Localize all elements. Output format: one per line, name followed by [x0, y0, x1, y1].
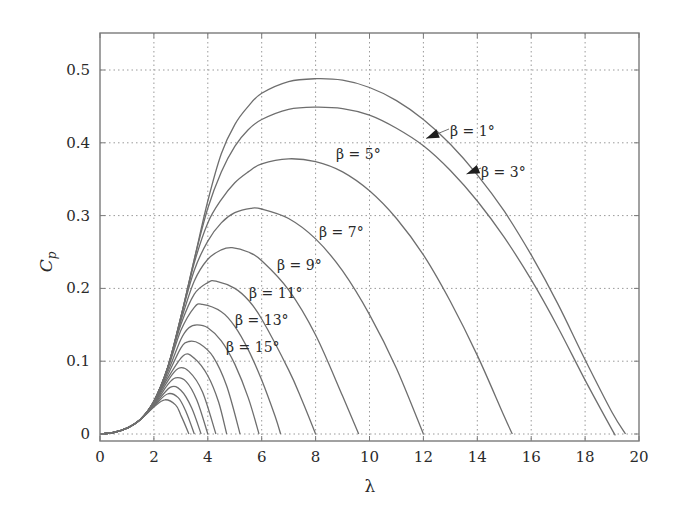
annotation-beta-9: β = 9°	[277, 257, 322, 273]
x-tick-label: 4	[203, 448, 213, 466]
annotations: β = 1°β = 3°β = 5°β = 7°β = 9°β = 11°β =…	[226, 123, 526, 355]
y-tick-label: 0.1	[66, 352, 90, 370]
x-tick-label: 14	[468, 448, 487, 466]
x-tick-label: 18	[576, 448, 595, 466]
annotation-beta-5: β = 5°	[336, 146, 381, 162]
y-axis-label: Cp	[36, 251, 59, 272]
annotation-beta-3: β = 3°	[481, 164, 526, 180]
x-tick-label: 8	[311, 448, 321, 466]
y-axis-label-main: Cp	[36, 251, 59, 272]
y-axis-ticks: 00.10.20.30.40.5	[66, 61, 639, 443]
x-tick-label: 12	[414, 448, 433, 466]
annotation-beta-11: β = 11°	[249, 285, 303, 301]
annotation-arrowhead-beta-1	[426, 129, 440, 138]
x-tick-label: 6	[257, 448, 267, 466]
curve-beta-29	[100, 400, 189, 434]
annotation-beta-7: β = 7°	[319, 224, 364, 240]
y-tick-label: 0.4	[66, 134, 90, 152]
grid-lines	[100, 33, 639, 441]
x-tick-label: 2	[149, 448, 159, 466]
y-axis-label-sub: p	[45, 251, 59, 259]
y-tick-label: 0.2	[66, 279, 90, 297]
annotation-beta-15: β = 15°	[226, 339, 280, 355]
x-axis-label: λ	[365, 476, 376, 496]
curve-beta-1	[100, 79, 626, 434]
curve-layer	[100, 79, 626, 435]
annotation-arrowhead-beta-3	[467, 165, 481, 174]
annotation-beta-1: β = 1°	[450, 123, 495, 139]
x-axis-ticks: 02468101214161820	[95, 33, 648, 466]
x-tick-label: 0	[95, 448, 105, 466]
annotation-beta-13: β = 13°	[235, 312, 289, 328]
x-tick-label: 10	[360, 448, 379, 466]
cp-lambda-chart: 02468101214161820 00.10.20.30.40.5 β = 1…	[0, 0, 682, 521]
y-tick-label: 0.5	[66, 61, 90, 79]
y-tick-label: 0.3	[66, 207, 90, 225]
y-tick-label: 0	[80, 425, 90, 443]
x-tick-label: 16	[522, 448, 541, 466]
x-tick-label: 20	[629, 448, 648, 466]
